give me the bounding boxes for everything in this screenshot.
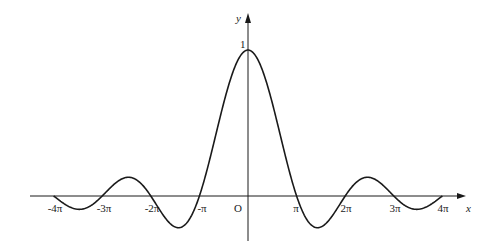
origin-label: O — [234, 202, 242, 214]
x-tick-label: 4π — [437, 202, 449, 214]
x-axis-label: x — [465, 202, 471, 214]
y-tick-label-1: 1 — [240, 38, 246, 50]
x-axis-arrow-icon — [457, 193, 466, 199]
y-axis-label: y — [235, 12, 241, 24]
x-tick-label: -4π — [48, 202, 63, 214]
x-tick-label: 3π — [389, 202, 401, 214]
x-tick-label: -3π — [97, 202, 112, 214]
y-axis-arrow-icon — [245, 13, 251, 23]
x-tick-label: -2π — [145, 202, 160, 214]
x-tick-label: π — [293, 202, 299, 214]
x-tick-label: -π — [197, 202, 207, 214]
sinc-function-chart: y x O 1 -4π -3π -2π -π π 2π 3π 4π — [0, 0, 495, 241]
x-tick-label: 2π — [340, 202, 352, 214]
